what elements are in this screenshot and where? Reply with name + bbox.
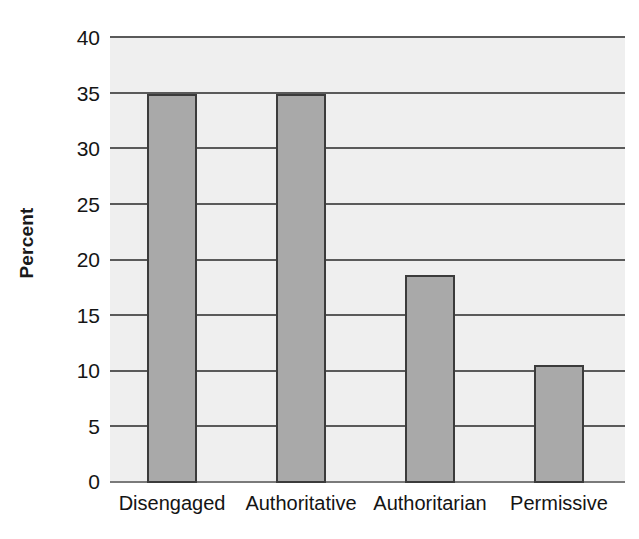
y-tick-label-30: 30 [46, 138, 100, 159]
y-tick-label-20: 20 [46, 249, 100, 270]
bar-permissive[interactable] [534, 365, 584, 483]
gridline-40 [110, 36, 625, 38]
y-tick-label-0: 0 [46, 471, 100, 492]
plot-area [110, 38, 625, 483]
y-tick-label-35: 35 [46, 83, 100, 104]
y-tick-label-40: 40 [46, 27, 100, 48]
bar-authoritarian[interactable] [405, 275, 455, 483]
y-tick-label-15: 15 [46, 305, 100, 326]
bar-chart-figure: Percent 40 35 30 25 20 15 10 5 0 Disenga… [0, 0, 639, 539]
bar-authoritative[interactable] [276, 94, 326, 483]
y-axis-title: Percent [16, 183, 38, 303]
x-tick-label-permissive: Permissive [474, 491, 639, 515]
y-tick-label-5: 5 [46, 416, 100, 437]
y-tick-label-25: 25 [46, 194, 100, 215]
y-tick-label-10: 10 [46, 360, 100, 381]
bar-disengaged[interactable] [147, 94, 197, 483]
